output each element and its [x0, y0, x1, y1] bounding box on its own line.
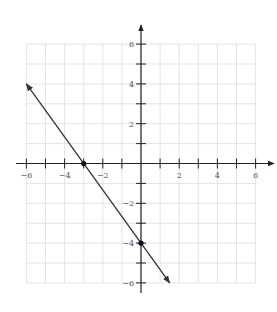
- y-tick-label: −4: [122, 239, 134, 248]
- y-intercept-point: [138, 241, 143, 246]
- x-intercept-point: [81, 161, 86, 166]
- axes: [16, 25, 274, 293]
- x-tick-label: 4: [215, 171, 220, 180]
- coordinate-plane: −6−4−2246642−2−4−6: [0, 0, 277, 312]
- y-tick-label: 6: [129, 40, 134, 49]
- y-tick-label: 2: [129, 120, 134, 129]
- y-tick-label: −6: [122, 279, 134, 288]
- x-tick-label: −2: [97, 171, 109, 180]
- x-tick-label: 2: [177, 171, 182, 180]
- x-tick-label: −4: [59, 171, 71, 180]
- y-tick-label: −2: [122, 199, 134, 208]
- x-tick-label: 6: [253, 171, 258, 180]
- y-tick-label: 4: [129, 80, 134, 89]
- x-tick-label: −6: [21, 171, 33, 180]
